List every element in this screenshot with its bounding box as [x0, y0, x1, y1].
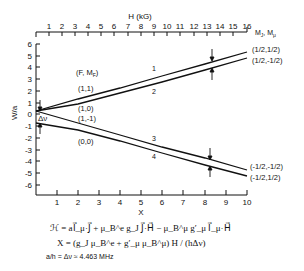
- svg-text:3: 3: [73, 22, 78, 31]
- mj-mmu-label: MJ, Mμ: [255, 29, 276, 38]
- svg-text:0: 0: [28, 110, 33, 119]
- svg-text:7: 7: [126, 22, 131, 31]
- svg-text:2: 2: [76, 198, 81, 207]
- svg-text:(1/2,-1/2): (1/2,-1/2): [252, 56, 283, 65]
- svg-text:15: 15: [229, 22, 238, 31]
- svg-text:9: 9: [152, 22, 157, 31]
- hyperfine-constant: a/h = Δν ≈ 4.463 MHz: [46, 253, 304, 260]
- svg-text:(1/2,1/2): (1/2,1/2): [252, 45, 280, 54]
- svg-text:2: 2: [60, 22, 65, 31]
- line-4: [36, 123, 247, 176]
- svg-text:(1,0): (1,0): [78, 104, 94, 113]
- svg-text:-4: -4: [25, 157, 33, 166]
- svg-text:6: 6: [28, 40, 33, 49]
- svg-text:(1,-1): (1,-1): [78, 114, 96, 123]
- line-3: [36, 111, 247, 170]
- svg-text:1: 1: [152, 65, 156, 72]
- state-labels: (F, MF) (1,1) (1,0) (1,-1) (0,0) (1/2,1/…: [76, 45, 283, 182]
- line-2: [36, 58, 247, 111]
- svg-text:5: 5: [139, 198, 144, 207]
- svg-text:6: 6: [160, 198, 165, 207]
- svg-text:-5: -5: [25, 169, 33, 178]
- x-axis-title: X: [138, 208, 144, 217]
- svg-text:10: 10: [163, 22, 172, 31]
- svg-text:3: 3: [97, 198, 102, 207]
- svg-text:6: 6: [112, 22, 117, 31]
- hamiltonian-formula: ℋ = aI⃗_μ·J⃗ + μ_B^e g_J J⃗·H⃗ − μ_B^μ g…: [50, 223, 304, 233]
- top-h-axis-ticklabels: 1 2 3 4 5 6 7 8 9 10 11 12 13 14 15 16: [47, 22, 252, 31]
- energy-lines: [36, 52, 247, 176]
- svg-text:5: 5: [28, 52, 33, 61]
- svg-text:11: 11: [176, 22, 185, 31]
- x-axis: [36, 190, 247, 195]
- svg-text:1: 1: [47, 22, 52, 31]
- svg-text:12: 12: [190, 22, 199, 31]
- svg-text:7: 7: [181, 198, 186, 207]
- svg-text:4: 4: [118, 198, 123, 207]
- svg-text:9: 9: [224, 198, 229, 207]
- y-axis-ticklabels: 6 5 4 3 2 1 0 -1 -2 -3 -4 -5 -6: [25, 40, 33, 190]
- x-definition-formula: X = (g_J μ_B^e + g′_μ μ_B^μ) H / (hΔν): [57, 238, 304, 248]
- y-axis-title: W/a: [10, 105, 19, 120]
- svg-text:4: 4: [152, 153, 156, 160]
- line-1: [36, 52, 247, 111]
- svg-text:2: 2: [28, 87, 33, 96]
- svg-text:(F, MF): (F, MF): [76, 68, 99, 78]
- svg-text:8: 8: [139, 22, 144, 31]
- svg-text:(-1/2,1/2): (-1/2,1/2): [250, 173, 281, 182]
- svg-text:3: 3: [28, 75, 33, 84]
- svg-text:-6: -6: [25, 181, 33, 190]
- svg-text:4: 4: [86, 22, 91, 31]
- svg-text:(0,0): (0,0): [78, 137, 94, 146]
- svg-text:8: 8: [203, 198, 208, 207]
- svg-text:4: 4: [28, 63, 33, 72]
- x-axis-ticklabels: 1 2 3 4 5 6 7 8 9 10: [55, 198, 252, 207]
- svg-text:(-1/2,-1/2): (-1/2,-1/2): [250, 162, 283, 171]
- svg-text:2: 2: [152, 88, 156, 95]
- svg-text:3: 3: [152, 135, 156, 142]
- svg-text:14: 14: [216, 22, 225, 31]
- svg-text:1: 1: [28, 99, 33, 108]
- svg-text:13: 13: [203, 22, 212, 31]
- h-axis-title: H (kG): [128, 12, 152, 21]
- svg-text:5: 5: [99, 22, 104, 31]
- delta-nu-label: Δν: [38, 114, 47, 123]
- svg-text:1: 1: [55, 198, 60, 207]
- svg-text:(1,1): (1,1): [78, 84, 94, 93]
- svg-text:16: 16: [243, 22, 252, 31]
- svg-text:10: 10: [243, 198, 252, 207]
- svg-text:-1: -1: [25, 122, 33, 131]
- svg-text:-3: -3: [25, 146, 33, 155]
- svg-text:-2: -2: [25, 134, 33, 143]
